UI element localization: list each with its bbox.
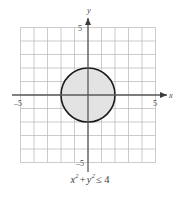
caption-plus-operator: + — [79, 174, 87, 185]
y-tick-label-pos5: 5 — [78, 24, 82, 33]
inequality-caption: x2+y2≤4 — [0, 172, 181, 185]
plot-area: x y –5 5 5 –5 — [0, 0, 181, 199]
x-tick-label-pos5: 5 — [153, 99, 157, 108]
x-tick-label-neg5: –5 — [13, 99, 22, 108]
caption-relation-operator: ≤ — [95, 174, 103, 185]
y-tick-label-neg5: –5 — [75, 159, 84, 168]
x-axis-arrowhead — [160, 92, 167, 98]
caption-value: 4 — [103, 174, 110, 185]
y-axis-arrowhead — [85, 18, 91, 25]
x-axis-label: x — [168, 90, 173, 100]
coordinate-plane-figure: x y –5 5 5 –5 x2+y2≤4 — [0, 0, 181, 199]
y-axis-label: y — [86, 5, 91, 15]
